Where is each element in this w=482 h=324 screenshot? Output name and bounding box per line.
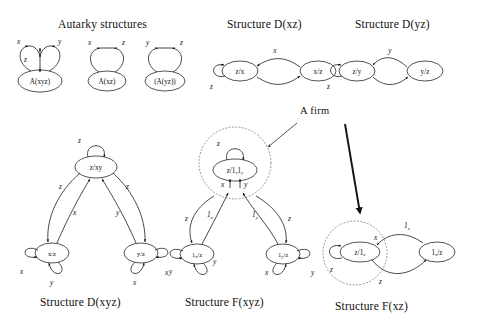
f-xyz-top-selfloop-label: z — [216, 139, 220, 148]
f-xz-edge-bottom — [372, 260, 426, 274]
f-xz-edge-top-label: 1x — [404, 221, 411, 231]
f-xz-node-right-label: 1x/z — [432, 249, 443, 258]
d-yz-edge-bottom — [373, 77, 408, 85]
f-xyz-top-selfloop — [227, 149, 244, 160]
d-yz-node-left-label: z/y — [353, 68, 362, 76]
f-xyz-edge-right-inner-label: 1y — [252, 210, 259, 220]
d-xyz-node-br-label: y/z — [137, 250, 145, 257]
f-xyz-bl-loop-y — [194, 263, 207, 275]
f-xyz-node-br-label: 1y/z — [278, 251, 288, 260]
d-yz-selfloop-label: z — [326, 82, 330, 91]
autarky-graph-a-xyz: A(xyz) z x y — [16, 37, 62, 92]
autarky1-right-loop-b — [40, 46, 52, 57]
structures-diagram-svg: A(xyz) z x y A(xz) x z (A(yz)) — [0, 0, 482, 324]
structure-d-xz-graph: z/x x/z x z — [209, 46, 336, 91]
f-xyz-bl-label-x: x — [164, 268, 169, 277]
autarky2-left-loop — [90, 48, 100, 72]
structure-d-yz-graph: z/y y/z y z — [326, 46, 443, 91]
d-yz-node-right-label: y/z — [421, 68, 430, 76]
d-yz-edge-top-label: y — [387, 46, 392, 55]
autarky2-right-loop — [114, 48, 124, 72]
heading-autarky-structures: Autarky structures — [58, 18, 147, 30]
d-xyz-edge-right-outer-label: z — [125, 182, 129, 191]
d-xyz-node-top-label: z/xy — [90, 164, 103, 172]
autarky1-right-loop — [49, 46, 60, 71]
caption-structure-f-xyz: Structure F(xyz) — [185, 296, 264, 308]
annotation-a-firm: A firm — [300, 105, 330, 116]
figure-canvas: A(xyz) z x y A(xz) x z (A(yz)) — [0, 0, 482, 324]
d-xz-edge-top — [257, 59, 300, 67]
d-xyz-edge-right-inner-label: y — [115, 208, 120, 217]
autarky1-label-y: y — [57, 37, 62, 46]
d-xyz-top-selfloop — [88, 146, 105, 157]
f-xyz-edge-left-outer — [190, 196, 214, 243]
autarky1-label-x: x — [16, 37, 21, 46]
structure-f-xyz-graph: z/1x1y z x y 1x/z 1y/z z — [164, 127, 315, 277]
autarky1-left-loop-b — [28, 46, 40, 57]
f-xz-node-left-label: z/1x — [355, 249, 367, 258]
d-xyz-node-bl-label: x/z — [48, 250, 56, 257]
d-xyz-br-label-y: y — [168, 267, 173, 276]
d-xz-node-left-label: z/x — [236, 68, 245, 76]
f-xyz-br-loop-x — [273, 263, 286, 275]
autarky-graph-a-yz: (A(yz)) y z — [145, 38, 185, 91]
f-xyz-edge-left-inner-label: 1x — [207, 210, 214, 220]
d-xz-selfloop-label: z — [209, 82, 213, 91]
autarky2-label-x: x — [87, 38, 92, 47]
d-xz-edge-bottom — [257, 76, 300, 84]
d-xyz-edge-left-inner-label: x — [72, 208, 77, 217]
d-yz-edge-top — [373, 58, 407, 67]
autarky3-right-loop — [172, 48, 182, 72]
a-firm-annotation-arrows — [268, 123, 360, 213]
f-xyz-edge-left-inner — [202, 193, 228, 244]
d-xyz-bl-label-y: y — [49, 278, 54, 287]
f-xz-edge-bottom-label: z — [378, 277, 382, 286]
autarky-node-a-xz-label: A(xz) — [99, 78, 116, 86]
autarky-node-a-yz-label: (A(yz)) — [154, 78, 176, 86]
f-xyz-bl-label-y: y — [212, 257, 217, 266]
a-firm-arrow-to-f-xz — [345, 124, 360, 213]
d-xyz-br-loop-x — [131, 262, 144, 274]
autarky3-label-z: z — [179, 38, 183, 47]
structure-f-xz-graph: z/1x 1x/z z 1x x z — [323, 221, 455, 286]
heading-structure-d-yz: Structure D(yz) — [355, 18, 430, 30]
autarky-node-a-xyz-label: A(xyz) — [30, 78, 51, 86]
d-xyz-bl-loop-y — [49, 262, 62, 274]
a-firm-arrow-to-f-xyz — [268, 123, 297, 147]
autarky3-label-y: y — [145, 38, 150, 47]
f-xyz-node-top-label: z/1x1y — [227, 167, 245, 176]
f-xyz-node-bl-label: 1x/z — [192, 251, 202, 260]
f-xyz-edge-right-inner — [243, 193, 278, 244]
autarky2-label-z: z — [121, 38, 125, 47]
autarky-graph-a-xz: A(xz) x z — [87, 38, 126, 91]
d-xyz-br-label-x: x — [132, 278, 137, 287]
d-xz-edge-top-label: x — [272, 46, 277, 55]
autarky3-left-loop — [148, 48, 158, 72]
f-xyz-edge-right-outer-label: z — [287, 214, 291, 223]
f-xyz-arrow-top-right-label: y — [243, 180, 248, 189]
d-xyz-top-selfloop-label: z — [77, 136, 81, 145]
autarky1-label-z: z — [23, 55, 27, 64]
f-xyz-edge-right-outer — [256, 196, 286, 243]
f-xyz-br-label-x: x — [264, 268, 269, 277]
structure-d-xyz-graph: z/xy z x/z y/z z x y z x — [19, 136, 173, 287]
f-xz-selfloop-label: z — [329, 265, 333, 274]
heading-structure-d-xz: Structure D(xz) — [227, 18, 302, 30]
caption-structure-f-xz: Structure F(xz) — [335, 300, 408, 312]
f-xyz-arrow-top-left-label: x — [220, 180, 225, 189]
f-xz-arrow-in-label: x — [373, 233, 378, 242]
f-xyz-dotted-boundary — [199, 127, 271, 199]
f-xyz-br-label-y: y — [310, 268, 315, 277]
d-xyz-bl-label-x: x — [19, 267, 24, 276]
f-xyz-edge-left-outer-label: z — [184, 214, 188, 223]
d-xyz-edge-left-outer-label: z — [58, 182, 62, 191]
d-xz-node-right-label: x/z — [314, 68, 323, 76]
caption-structure-d-xyz: Structure D(xyz) — [40, 296, 121, 308]
